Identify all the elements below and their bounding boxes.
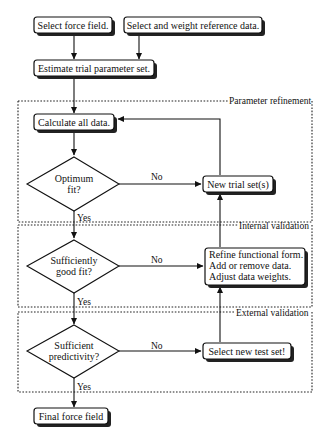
node-label: Select new test set!: [209, 346, 286, 357]
region-label-parameter-refinement: Parameter refinement: [229, 96, 311, 106]
node-label: Calculate all data.: [38, 117, 110, 128]
node-label: New trial set(s): [207, 179, 269, 191]
node-new-trial-sets: New trial set(s): [203, 176, 276, 195]
node-label: Final force field: [39, 411, 103, 422]
node-label-line1: Refine functional form.: [209, 249, 303, 260]
node-final-force-field: Final force field: [34, 408, 111, 427]
decision-label-line1: Optimum: [55, 173, 94, 184]
node-select-force-field: Select force field.: [34, 17, 115, 36]
edge-label-yes: Yes: [77, 213, 91, 223]
node-label: Estimate trial parameter set.: [38, 63, 150, 74]
decision-label-line2: predictivity?: [49, 351, 100, 362]
decision-sufficiently-good-fit: Sufficiently good fit?: [27, 240, 119, 293]
node-label-line2: Add or remove data.: [209, 260, 291, 271]
edge-newtrial-to-calculate: [118, 119, 220, 175]
decision-label-line2: fit?: [67, 184, 81, 195]
edge-label-no: No: [151, 341, 163, 351]
decision-sufficient-predictivity: Sufficient predictivity?: [27, 325, 119, 378]
edge-label-no: No: [151, 255, 163, 265]
flowchart: Parameter refinement Internal validation…: [0, 0, 330, 445]
decision-label-line1: Sufficiently: [50, 255, 97, 266]
edge-label-no: No: [151, 172, 163, 182]
edge-label-yes: Yes: [77, 382, 91, 392]
edge-label-yes: Yes: [77, 297, 91, 307]
decision-label-line2: good fit?: [56, 266, 92, 277]
node-label: Select and weight reference data.: [127, 20, 259, 31]
node-calculate-all: Calculate all data.: [34, 114, 117, 133]
region-label-external-validation: External validation: [236, 308, 309, 318]
decision-optimum-fit: Optimum fit?: [27, 157, 119, 211]
region-label-internal-validation: Internal validation: [239, 221, 309, 231]
node-refine: Refine functional form. Add or remove da…: [205, 248, 308, 288]
node-label: Select force field.: [38, 20, 109, 31]
node-estimate-trial: Estimate trial parameter set.: [34, 60, 157, 79]
node-select-new-test-set: Select new test set!: [203, 343, 294, 362]
node-label-line3: Adjust data weights.: [209, 271, 291, 282]
decision-label-line1: Sufficient: [54, 340, 93, 351]
node-select-reference-data: Select and weight reference data.: [124, 17, 265, 36]
